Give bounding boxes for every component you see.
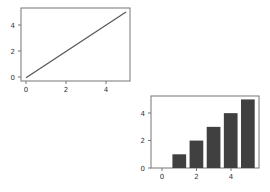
bar-xtick-label: 4 (229, 173, 234, 181)
bar-ytick-label: 0 (141, 165, 145, 173)
line-chart: 0 2 4 0 2 4 (11, 8, 130, 94)
bar-xtick-label: 2 (194, 173, 198, 181)
bar (190, 141, 204, 168)
bar-ytick-label: 4 (141, 110, 146, 118)
bar-xtick-label: 0 (160, 173, 164, 181)
line-y-ticks: 0 2 4 (11, 22, 21, 82)
line-ytick-label: 2 (11, 48, 15, 56)
line-xtick-label: 0 (24, 86, 28, 94)
bar (207, 127, 221, 168)
bar-chart: 0 2 4 0 2 4 (141, 96, 259, 181)
line-xtick-label: 4 (104, 86, 109, 94)
line-xtick-label: 2 (64, 86, 68, 94)
line-x-ticks: 0 2 4 (24, 81, 109, 94)
bar-ytick-label: 2 (141, 137, 145, 145)
bar-y-ticks: 0 2 4 (141, 110, 151, 173)
bar (241, 99, 255, 168)
bar (172, 154, 186, 168)
bar-x-ticks: 0 2 4 (160, 168, 234, 181)
line-ytick-label: 0 (11, 74, 15, 82)
figure: 0 2 4 0 2 4 0 2 4 (0, 0, 270, 192)
bar (224, 113, 238, 168)
line-ytick-label: 4 (11, 22, 16, 30)
